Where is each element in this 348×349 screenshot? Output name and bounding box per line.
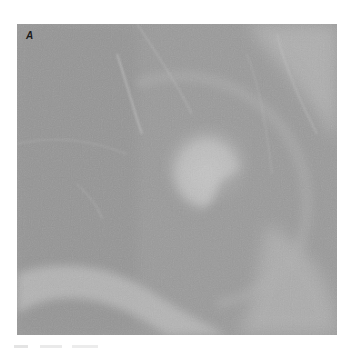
radiograph-image: A <box>17 24 337 335</box>
panel-label: A <box>26 30 33 41</box>
radiograph-texture <box>17 24 337 335</box>
caption-remnant <box>14 345 134 348</box>
